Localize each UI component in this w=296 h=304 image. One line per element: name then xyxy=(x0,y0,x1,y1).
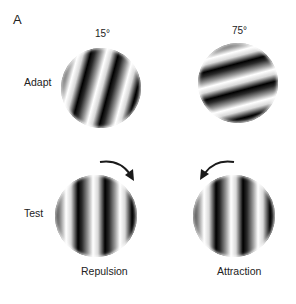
test-grating-attraction xyxy=(193,175,275,257)
angle-label-15: 15° xyxy=(95,29,110,39)
condition-label-attraction: Attraction xyxy=(217,266,261,277)
adapt-grating-75deg xyxy=(198,43,278,123)
test-grating-repulsion xyxy=(55,175,137,257)
row-label-adapt: Adapt xyxy=(24,77,51,88)
row-label-test: Test xyxy=(24,208,43,219)
panel-letter: A xyxy=(13,13,22,26)
counterclockwise-arrow-icon xyxy=(196,156,240,186)
condition-label-repulsion: Repulsion xyxy=(81,266,128,277)
clockwise-arrow-icon xyxy=(95,156,139,186)
angle-label-75: 75° xyxy=(232,26,247,36)
adapt-grating-15deg xyxy=(61,48,141,128)
